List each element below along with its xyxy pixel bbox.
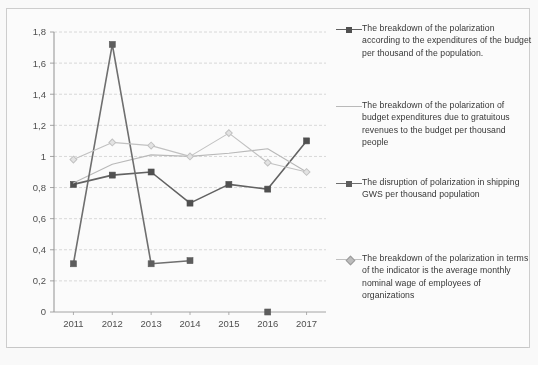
data-point-marker: [70, 261, 76, 267]
data-point-marker: [148, 261, 154, 267]
data-point-marker: [265, 309, 271, 315]
legend-item-label: The disruption of polarization in shippi…: [362, 176, 532, 201]
x-axis-tick-label: 2011: [63, 318, 83, 329]
legend-marker-line-icon: [336, 101, 362, 113]
y-axis-tick-label: 1: [41, 151, 46, 162]
legend-item-label: The breakdown of the polarization in ter…: [362, 252, 532, 302]
data-point-marker: [148, 169, 154, 175]
series-line-0: [70, 138, 309, 206]
x-axis-tick-label: 2013: [141, 318, 162, 329]
line-chart-svg: 00,20,40,60,811,21,41,61,8 2011201220132…: [14, 16, 330, 336]
page-bottom-rule: [8, 347, 528, 348]
y-axis-tick-label: 1,8: [33, 26, 46, 37]
x-axis-tick-labels: 2011201220132014201520162017: [63, 312, 317, 329]
x-axis-tick-label: 2015: [218, 318, 239, 329]
data-point-marker: [304, 138, 310, 144]
data-point-marker: [187, 153, 194, 160]
y-axis-tick-label: 0,4: [33, 244, 46, 255]
data-point-marker: [303, 169, 310, 176]
x-axis-tick-label: 2014: [179, 318, 200, 329]
series-path: [73, 141, 306, 203]
chart-legend: The breakdown of the polarization accord…: [336, 20, 532, 330]
y-axis-tick-label: 1,2: [33, 120, 46, 131]
y-axis-tick-label: 0: [41, 306, 46, 317]
data-point-marker: [148, 142, 155, 149]
legend-item-1[interactable]: The breakdown of the polarization of bud…: [336, 99, 532, 149]
axes-group: [54, 32, 326, 312]
x-axis-tick-label: 2012: [102, 318, 123, 329]
legend-item-label: The breakdown of the polarization accord…: [362, 22, 532, 59]
legend-marker-diamond-icon: [336, 254, 362, 266]
y-axis-tick-label: 0,2: [33, 275, 46, 286]
y-axis-tick-labels: 00,20,40,60,811,21,41,61,8: [33, 26, 46, 317]
legend-item-3[interactable]: The breakdown of the polarization in ter…: [336, 252, 532, 302]
data-point-marker: [265, 186, 271, 192]
x-axis-tick-label: 2017: [296, 318, 317, 329]
data-point-marker: [109, 139, 116, 146]
y-axis-tick-label: 1,4: [33, 89, 46, 100]
data-point-marker: [187, 200, 193, 206]
data-point-marker: [226, 181, 232, 187]
plot-area: 00,20,40,60,811,21,41,61,8 2011201220132…: [14, 16, 330, 336]
data-point-marker: [187, 258, 193, 264]
legend-item-2[interactable]: The disruption of polarization in shippi…: [336, 176, 532, 201]
legend-marker-square-icon: [336, 24, 362, 36]
y-axis-tick-label: 0,6: [33, 213, 46, 224]
data-point-marker: [109, 41, 115, 47]
y-axis-tick-label: 1,6: [33, 58, 46, 69]
x-axis-tick-label: 2016: [257, 318, 278, 329]
legend-item-0[interactable]: The breakdown of the polarization accord…: [336, 22, 532, 59]
y-axis-tick-label: 0,8: [33, 182, 46, 193]
legend-item-label: The breakdown of the polarization of bud…: [362, 99, 532, 149]
legend-marker-square-icon: [336, 178, 362, 190]
data-point-marker: [70, 156, 77, 163]
data-series-layer: [70, 41, 310, 315]
figure-canvas: 00,20,40,60,811,21,41,61,8 2011201220132…: [0, 0, 538, 365]
gridlines-group: [50, 32, 326, 312]
data-point-marker: [109, 172, 115, 178]
